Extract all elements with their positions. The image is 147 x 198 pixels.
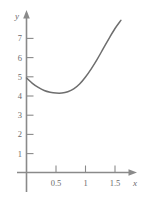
- x-tick-label-1.5: 1.5: [110, 178, 121, 188]
- x-tick-label-1: 1: [83, 178, 87, 188]
- x-tick-label-0.5: 0.5: [51, 178, 62, 188]
- y-tick-label-3: 3: [18, 110, 22, 120]
- x-axis-ticks: [56, 166, 115, 173]
- chart-figure: 1 2 3 4 5 6 7 0.5 1 1.5 y x: [0, 0, 147, 198]
- y-axis-label: y: [14, 11, 19, 21]
- y-tick-label-4: 4: [18, 91, 23, 101]
- x-axis-arrow-icon: [129, 169, 138, 176]
- y-tick-label-7: 7: [18, 33, 22, 43]
- y-tick-label-6: 6: [18, 53, 22, 63]
- plot-canvas: 1 2 3 4 5 6 7 0.5 1 1.5 y x: [0, 0, 147, 198]
- y-tick-label-5: 5: [18, 72, 22, 82]
- y-tick-label-2: 2: [18, 129, 22, 139]
- y-axis-arrow-icon: [23, 10, 30, 19]
- y-tick-label-1: 1: [18, 149, 22, 159]
- y-axis-ticks: [27, 38, 34, 153]
- curve-series: [27, 20, 121, 93]
- x-axis-label: x: [132, 178, 137, 188]
